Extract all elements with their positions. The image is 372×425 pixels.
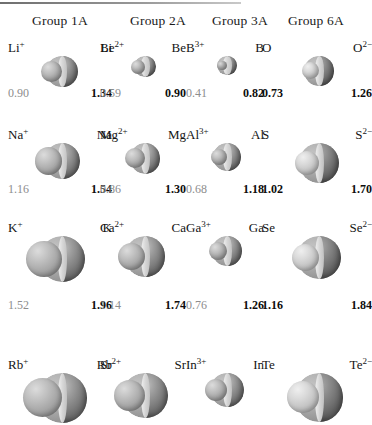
atom-label: S xyxy=(262,127,269,143)
atom-radius-value: 1.30 xyxy=(156,182,186,197)
cation-label: Sr2+ xyxy=(100,357,121,373)
anion-label: Se2− xyxy=(349,220,372,236)
atom-radius-value: 1.74 xyxy=(156,298,186,313)
cation-sphere xyxy=(23,378,62,417)
cation-label: K+ xyxy=(8,220,22,236)
cation-sphere xyxy=(131,60,145,74)
cation-label: Ga3+ xyxy=(186,220,211,236)
cation-radius-value: 1.52 xyxy=(8,298,29,313)
cation-radius-value: 1.16 xyxy=(8,182,29,197)
cation-sphere xyxy=(114,380,145,411)
atom-radius-value: 1.18 xyxy=(234,182,264,197)
cation-sphere xyxy=(211,149,227,165)
atom-radius-value: 1.02 xyxy=(262,182,283,197)
cation-label: In3+ xyxy=(186,357,206,373)
cation-label: Ca2+ xyxy=(100,220,124,236)
cation-label: Mg2+ xyxy=(100,127,128,143)
atom-label: O xyxy=(262,40,271,56)
cation-radius-value: 0.41 xyxy=(186,86,207,101)
column-header-row: Group 1A Group 2A Group 3A Group 6A xyxy=(0,13,372,31)
cation-label: Rb+ xyxy=(8,357,28,373)
radius-sphere-pair xyxy=(8,373,112,425)
radius-sphere-pair xyxy=(186,143,264,175)
anion-label: Te2− xyxy=(350,357,372,373)
radius-sphere-pair xyxy=(262,373,372,425)
anion-radius-value: 1.70 xyxy=(342,182,372,197)
ionic-radii-figure: Group 1A Group 2A Group 3A Group 6A Li+L… xyxy=(0,0,372,425)
atom-radius-value: 0.82 xyxy=(234,86,264,101)
atom-label: Be xyxy=(172,40,186,56)
cation-radius-value: 0.59 xyxy=(100,86,121,101)
cation-radius-value: 1.14 xyxy=(100,298,121,313)
radius-sphere-pair xyxy=(100,236,186,281)
radius-sphere-pair xyxy=(262,56,372,90)
top-divider-rule xyxy=(0,2,241,4)
cation-label: Al3+ xyxy=(186,127,209,143)
atom-label: Sr xyxy=(174,357,186,373)
atom-label: Mg xyxy=(168,127,186,143)
cation-sphere xyxy=(35,147,62,174)
atom-radius-value: 1.16 xyxy=(262,298,283,313)
atom-label: Se xyxy=(262,220,275,236)
cation-sphere xyxy=(26,241,62,277)
radius-sphere-pair xyxy=(262,143,372,187)
cation-sphere xyxy=(118,243,145,270)
cation-sphere xyxy=(209,242,227,260)
radius-sphere-pair xyxy=(186,56,264,79)
cation-label: B3+ xyxy=(186,40,204,56)
cation-label: Be2+ xyxy=(100,40,124,56)
cation-radius-value: 0.86 xyxy=(100,182,121,197)
cation-radius-value: 0.76 xyxy=(186,298,207,313)
atom-radius-value: 0.90 xyxy=(156,86,186,101)
atom-label: Te xyxy=(262,357,275,373)
radius-sphere-pair xyxy=(100,373,186,422)
atom-label: Ca xyxy=(172,220,186,236)
cation-label: Li+ xyxy=(8,40,25,56)
radius-sphere-pair xyxy=(262,236,372,283)
atom-radius-value: 1.26 xyxy=(234,298,264,313)
radius-sphere-pair xyxy=(186,373,264,411)
anion-label: S2− xyxy=(355,127,372,143)
cation-sphere xyxy=(205,379,227,401)
anion-label: O2− xyxy=(353,40,372,56)
column-header-group-6a: Group 6A xyxy=(260,13,372,29)
atom-sphere xyxy=(295,151,319,175)
atom-radius-value: 0.73 xyxy=(262,86,283,101)
radius-sphere-pair xyxy=(8,236,112,286)
cation-radius-value: 0.90 xyxy=(8,86,29,101)
atom-sphere xyxy=(287,381,319,413)
cation-radius-value: 0.68 xyxy=(186,182,207,197)
radius-sphere-pair xyxy=(100,143,186,178)
radius-sphere-pair xyxy=(8,143,112,183)
anion-radius-value: 1.84 xyxy=(342,298,372,313)
radius-sphere-pair xyxy=(100,56,186,81)
cation-label: Na+ xyxy=(8,127,28,143)
atom-sphere xyxy=(292,244,319,271)
radius-sphere-pair xyxy=(186,236,264,270)
anion-radius-value: 1.26 xyxy=(342,86,372,101)
